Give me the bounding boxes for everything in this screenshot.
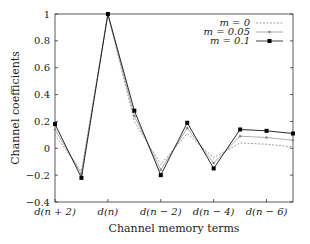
data-point-marker [133,115,136,118]
data-point-marker [239,135,242,138]
y-tick-label: 0.2 [34,116,50,127]
data-point-marker [185,121,189,125]
data-point-marker [212,166,216,170]
series-lines [53,12,295,180]
y-tick-label: 0 [44,143,50,154]
data-point-marker [106,12,110,16]
y-tick-label: 1 [44,9,50,20]
data-point-marker [132,109,136,113]
data-point-marker [265,129,269,133]
y-tick-label: 0.4 [34,89,50,100]
x-tick-label: d(n) [98,206,119,217]
x-tick-label: d(n − 4) [193,206,235,217]
legend: m = 0m = 0.05m = 0.1 [204,17,283,46]
legend-marker [268,39,272,43]
y-tick-label: 0.6 [34,62,50,73]
data-point-marker [212,162,215,165]
data-point-marker [54,128,57,131]
series-line [55,14,293,171]
data-point-marker [159,173,163,177]
x-tick-label: d(n + 2) [34,206,76,217]
plot-axes: −0.4−0.200.20.40.60.81d(n + 2)d(n)d(n − … [26,9,293,218]
x-axis-label: Channel memory terms [109,222,240,235]
data-point-marker [292,139,295,142]
series-line [55,14,293,178]
y-axis-label: Channel coefficients [9,51,22,165]
data-point-marker [159,168,162,171]
legend-label: m = 0.1 [210,35,250,46]
x-tick-label: d(n − 6) [246,206,288,217]
data-point-marker [265,136,268,139]
plot-frame [55,14,293,202]
line-chart: −0.4−0.200.20.40.60.81d(n + 2)d(n)d(n − … [0,0,310,244]
data-point-marker [53,122,57,126]
y-tick-label: −0.2 [26,170,50,181]
data-point-marker [238,127,242,131]
data-point-marker [186,127,189,130]
x-tick-label: d(n − 2) [140,206,182,217]
data-point-marker [291,132,295,136]
data-point-marker [79,176,83,180]
legend-marker [268,31,271,34]
y-tick-label: 0.8 [34,35,50,46]
